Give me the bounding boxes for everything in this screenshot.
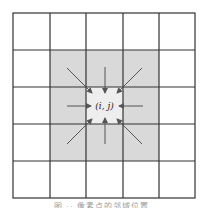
center-label: (i, j) [95,101,114,111]
figure-caption: 图 ·· 像素点的邻域位置 [0,200,203,208]
neighborhood-diagram: (i, j) [0,0,203,200]
